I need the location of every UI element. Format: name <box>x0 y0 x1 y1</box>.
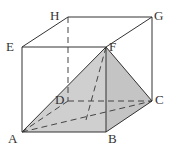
label-b: B <box>108 131 117 146</box>
label-d: D <box>55 92 64 107</box>
label-e: E <box>6 39 14 54</box>
label-f: F <box>109 39 116 54</box>
cube-diagram: H G E F D C A B <box>0 0 176 156</box>
label-g: G <box>154 8 163 23</box>
label-h: H <box>50 8 59 23</box>
label-a: A <box>8 131 18 146</box>
label-c: C <box>155 92 164 107</box>
